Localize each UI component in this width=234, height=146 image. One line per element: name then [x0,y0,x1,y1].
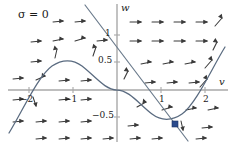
tick-label-x-neg2: −2 [20,95,33,104]
field-arrow [174,21,185,24]
field-arrow [103,137,113,140]
field-arrow [81,98,91,101]
field-arrow [128,124,138,127]
field-arrow [31,60,41,63]
field-arrow [208,106,218,110]
field-arrow [141,60,151,64]
field-arrow [53,37,63,41]
field-arrow [81,120,91,123]
field-arrow [196,21,207,24]
field-arrow [152,40,163,43]
linear-nullcline [85,5,188,141]
tick-label-y-neg05: −0.5 [92,111,114,120]
field-arrow [54,47,57,58]
w-axis-label: w [121,3,130,13]
field-arrow [93,45,96,56]
field-arrow [53,20,63,23]
phase-plane-plot [0,0,234,146]
field-arrow [75,20,85,23]
field-arrow [152,137,162,140]
field-arrow [196,40,207,43]
field-arrow [181,121,184,130]
field-arrow [81,79,91,82]
field-arrow [185,60,195,64]
field-arrow [202,126,212,129]
tick-label-x-2: 2 [203,95,209,104]
field-arrow [167,81,177,84]
field-arrow [215,15,222,26]
tick-label-x-1: 1 [159,95,165,104]
field-arrow [36,120,46,123]
field-arrow [196,137,206,140]
sigma-annotation: σ = 0 [18,9,49,20]
field-arrow [189,81,199,84]
field-arrow [130,40,141,43]
equilibrium-point[interactable] [172,121,178,127]
field-arrow [130,137,140,140]
field-arrow [33,97,37,106]
field-arrow [75,36,85,41]
field-arrow [174,40,185,43]
field-arrow [163,60,173,64]
field-arrow [213,39,217,50]
field-arrow [31,40,41,43]
figure-canvas: σ = 0 w v 1 0.5 −0.5 −2 −1 1 2 [0,0,234,146]
field-arrow [130,21,141,24]
tick-label-x-neg1: −1 [64,95,77,104]
field-arrow [152,21,163,24]
tick-label-y-1: 1 [105,29,111,38]
field-arrow [36,137,46,140]
v-axis-label: v [219,77,225,87]
field-arrow [13,77,23,80]
field-arrow [205,57,212,68]
field-arrow [59,120,69,123]
field-arrow [145,81,155,84]
field-arrow [59,137,69,140]
field-arrow [13,120,23,123]
field-arrow [59,79,69,82]
tick-label-y-05: 0.5 [98,56,112,65]
field-arrow [124,68,128,79]
field-arrow [97,39,107,42]
field-arrow [137,100,146,107]
field-arrow [81,137,91,140]
